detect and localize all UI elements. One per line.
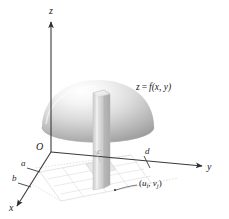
z-axis-label: z (49, 6, 53, 16)
y-tick-d-label: d (145, 147, 150, 156)
double-integral-figure: z y x O a b c d z=f(x, y) (ui, vj) (0, 0, 229, 219)
surface-label-z: z (136, 82, 140, 92)
x-tick-b-label: b (12, 174, 17, 183)
surface-label-equals: = (142, 82, 147, 92)
riemann-column (93, 90, 110, 190)
surface-equation-label: z=f(x, y) (136, 83, 171, 93)
y-tick-c-label: c (97, 147, 101, 156)
x-tick-a-label: a (21, 159, 26, 168)
surface-label-args: (x, y) (152, 82, 172, 92)
x-axis-label: x (9, 203, 13, 213)
origin-label: O (36, 141, 43, 152)
sample-point-label: (ui, vj) (139, 179, 162, 189)
y-axis-label: y (207, 162, 211, 172)
figure-canvas (0, 0, 229, 219)
sample-point-close: ) (159, 178, 162, 188)
